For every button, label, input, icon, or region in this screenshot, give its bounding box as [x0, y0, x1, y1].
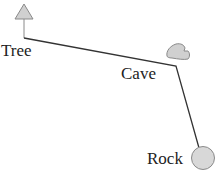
tree-label: Tree	[1, 41, 32, 60]
rock-label: Rock	[147, 149, 183, 168]
tree-icon	[15, 4, 33, 19]
cave-icon	[167, 44, 190, 60]
rock-icon	[192, 147, 215, 170]
cave-label: Cave	[121, 64, 156, 83]
path-diagram: Tree Cave Rock	[0, 0, 218, 172]
